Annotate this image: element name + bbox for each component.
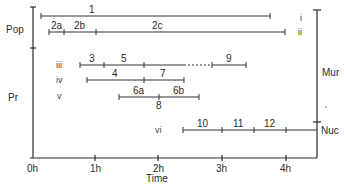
group-label-mur: Mur [322, 67, 339, 78]
roman-v: v [57, 91, 62, 101]
group-label-pr: Pr [8, 92, 18, 103]
x-tick-label-0h: 0h [27, 163, 38, 174]
roman-ii: ii [298, 27, 302, 37]
seg-11: 11 [233, 118, 243, 129]
seg-10: 10 [197, 118, 208, 129]
roman-i: i [300, 13, 302, 23]
seg-2a: 2a [51, 20, 62, 31]
seg-2c: 2c [152, 20, 163, 31]
x-tick-label-4h: 4h [280, 163, 291, 174]
roman-iii: iii [56, 60, 62, 70]
x-tick-label-1h: 1h [90, 163, 101, 174]
seg-6b: 6b [173, 85, 184, 96]
seg-1: 1 [89, 4, 95, 15]
seg-3: 3 [89, 53, 95, 64]
seg-12: 12 [264, 118, 275, 129]
x-tick-label-3h: 3h [216, 163, 227, 174]
group-label-nuc: Nuc [321, 125, 339, 136]
x-axis-title: Time [146, 173, 168, 184]
roman-vi: vi [155, 125, 162, 135]
seg-4: 4 [112, 68, 118, 79]
seg-9: 9 [226, 53, 232, 64]
seg-6a: 6a [133, 85, 144, 96]
seg-5: 5 [121, 53, 127, 64]
seg-8: 8 [156, 100, 162, 111]
group-label-pop: Pop [6, 24, 24, 35]
roman-iv: iv [56, 75, 63, 85]
seg-2b: 2b [74, 20, 85, 31]
seg-7: 7 [160, 68, 166, 79]
